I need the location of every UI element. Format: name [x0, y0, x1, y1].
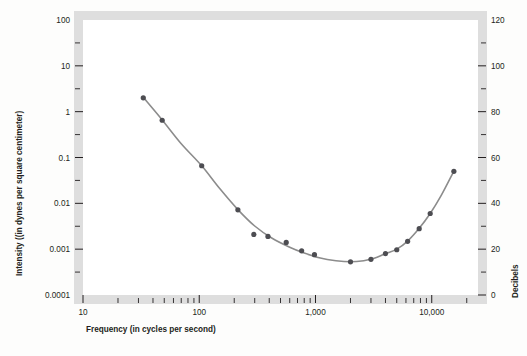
y2-tick-label: 100	[491, 62, 505, 71]
x-tick-label: 100	[192, 308, 206, 317]
plot-area-background	[83, 20, 478, 295]
data-point	[394, 247, 399, 252]
y2-tick-label: 0	[491, 291, 496, 300]
data-point	[199, 163, 204, 168]
data-point	[417, 226, 422, 231]
data-point	[141, 95, 146, 100]
data-point	[265, 234, 270, 239]
y-tick-label: 1	[65, 108, 70, 117]
y2-tick-label: 20	[491, 245, 501, 254]
data-point	[235, 207, 240, 212]
y2-axis-title: Decibels	[511, 264, 520, 298]
data-point	[348, 259, 353, 264]
y-tick-label: 0.001	[50, 245, 71, 254]
data-point	[299, 248, 304, 253]
data-point	[383, 251, 388, 256]
y2-tick-label: 120	[491, 16, 505, 25]
y2-tick-label: 60	[491, 154, 501, 163]
y-tick-label: 0.01	[54, 199, 70, 208]
x-tick-label: 1,000	[305, 308, 326, 317]
y-tick-label: 10	[61, 62, 71, 71]
x-tick-label: 10,000	[419, 308, 444, 317]
data-point	[312, 252, 317, 257]
y-tick-label: 0.0001	[45, 291, 70, 300]
data-point	[451, 169, 456, 174]
frame-top	[74, 11, 487, 20]
data-point	[428, 211, 433, 216]
y2-tick-label: 80	[491, 108, 501, 117]
y-tick-label: 0.1	[59, 154, 71, 163]
x-tick-label: 10	[78, 308, 88, 317]
data-point	[284, 240, 289, 245]
data-point	[368, 257, 373, 262]
x-axis-title: Frequency (in cycles per second)	[86, 325, 216, 334]
data-point	[405, 239, 410, 244]
y2-tick-label: 40	[491, 199, 501, 208]
data-point	[251, 232, 256, 237]
y-axis-title: Intensity ((in dynes per square centimet…	[15, 111, 24, 276]
y-tick-label: 100	[56, 16, 70, 25]
chart-canvas: 101001,00010,000 1001010.10.010.0010.000…	[0, 0, 527, 356]
data-point	[160, 118, 165, 123]
threshold-of-hearing-chart: 101001,00010,000 1001010.10.010.0010.000…	[0, 0, 527, 356]
